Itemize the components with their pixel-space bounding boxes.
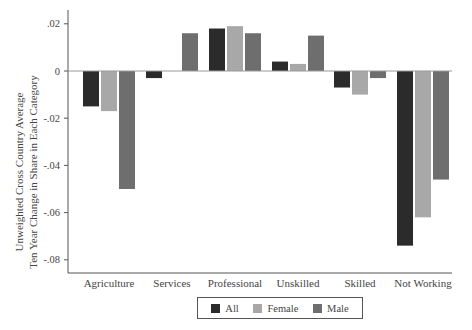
x-tick-label: Unskilled	[277, 277, 320, 289]
y-tick-label: .02	[47, 18, 60, 29]
bar-all	[209, 29, 225, 71]
bar-female	[101, 71, 117, 111]
bar-female	[415, 71, 431, 217]
legend-label-male: Male	[327, 303, 349, 314]
bar-male	[433, 71, 449, 180]
y-axis-label-line-1: Unweighted Cross Country Average	[12, 75, 26, 269]
y-axis-label: Unweighted Cross Country Average Ten Yea…	[6, 72, 46, 272]
bar-all	[334, 71, 350, 88]
bar-all	[146, 71, 162, 78]
bar-male	[370, 71, 386, 78]
bar-all	[272, 62, 288, 71]
legend-item-female: Female	[253, 303, 298, 314]
legend-item-all: All	[211, 303, 238, 314]
legend-item-male: Male	[313, 303, 349, 314]
bar-chart: .020-.02-.04-.06-.08AgricultureServicesP…	[0, 0, 472, 330]
legend-label-all: All	[225, 303, 238, 314]
bar-male	[245, 33, 261, 71]
legend-swatch-all	[211, 304, 220, 313]
x-tick-label: Skilled	[344, 277, 376, 289]
bar-all	[83, 71, 99, 106]
bar-male	[119, 71, 135, 189]
x-tick-label: Not Working	[394, 277, 452, 289]
legend-swatch-male	[313, 304, 322, 313]
legend: All Female Male	[197, 297, 363, 319]
x-tick-label: Agriculture	[84, 277, 135, 289]
y-axis-label-line-2: Ten Year Change in Share in Each Categor…	[26, 75, 40, 269]
bar-female	[227, 26, 243, 71]
plot-area: .020-.02-.04-.06-.08AgricultureServicesP…	[0, 0, 472, 330]
bar-male	[182, 33, 198, 71]
bar-female	[290, 64, 306, 71]
legend-swatch-female	[253, 304, 262, 313]
x-tick-label: Professional	[208, 277, 262, 289]
bar-female	[352, 71, 368, 95]
bar-all	[397, 71, 413, 246]
x-tick-label: Services	[153, 277, 190, 289]
legend-label-female: Female	[267, 303, 298, 314]
bar-male	[308, 36, 324, 71]
y-tick-label: 0	[55, 66, 60, 77]
